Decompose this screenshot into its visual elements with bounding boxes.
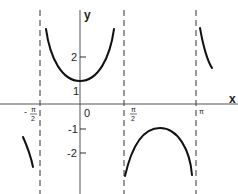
svg-text:π: π <box>131 106 136 113</box>
x-tick-neg-half-pi: - π 2 <box>24 106 37 122</box>
y-tick-1: 1 <box>73 85 79 97</box>
y-tick-neg-1: -1 <box>68 123 78 135</box>
y-ticks <box>80 57 86 153</box>
x-tick-half-pi: π 2 <box>130 106 137 122</box>
x-axis-label: x <box>229 92 236 106</box>
curve-branch-far-right <box>200 28 212 68</box>
curve-branch-left <box>23 137 33 167</box>
svg-text:π: π <box>31 106 36 113</box>
curves <box>23 28 212 176</box>
x-tick-pi: π <box>199 108 204 115</box>
svg-text:2: 2 <box>131 115 135 122</box>
secant-graph: y x 2 1 -1 -2 0 - π 2 π 2 π <box>0 0 238 194</box>
svg-text:2: 2 <box>31 115 35 122</box>
y-axis-label: y <box>84 8 91 22</box>
svg-text:-: - <box>24 107 27 117</box>
asymptotes <box>40 10 196 194</box>
y-tick-2: 2 <box>71 51 77 63</box>
curve-branch-right-lower <box>125 128 192 176</box>
y-tick-neg-2: -2 <box>67 147 77 159</box>
x-tick-0: 0 <box>84 107 90 119</box>
